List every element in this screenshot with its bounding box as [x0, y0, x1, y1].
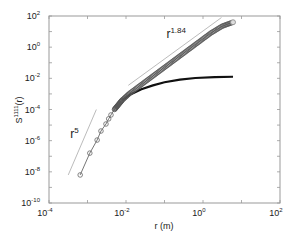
- y-tick-label: 10-10: [21, 197, 40, 208]
- y-tick-label: 10-6: [25, 135, 41, 146]
- x-tick-label: 100: [192, 207, 206, 218]
- y-tick-label: 100: [27, 41, 41, 52]
- x-tick-labels: 10-410-2100102: [37, 207, 283, 218]
- y-tick-label: 10-4: [25, 104, 41, 115]
- axes-frame: [49, 16, 280, 203]
- y-tick-labels: 10210010-210-410-610-810-10: [21, 10, 40, 208]
- y-axis-label: S1111(r): [13, 96, 24, 123]
- y-tick-label: 10-8: [25, 166, 41, 177]
- y-tick-label: 10-2: [25, 72, 41, 83]
- chart: 10-410-2100102 10210010-210-410-610-810-…: [0, 0, 301, 238]
- x-axis-label: r (m): [155, 221, 174, 231]
- data-marker: [231, 20, 236, 25]
- plot-area: [49, 16, 280, 203]
- x-tick-label: 10-2: [114, 207, 130, 218]
- y-tick-label: 102: [27, 10, 41, 21]
- x-tick-label: 10-4: [37, 207, 53, 218]
- x-tick-label: 102: [269, 207, 283, 218]
